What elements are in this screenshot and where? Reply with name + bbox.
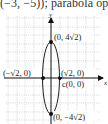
x-axis-label: x — [103, 79, 108, 87]
top-vertex-label: (0, 4√2) — [54, 32, 81, 42]
ellipse-graph: y x (0, 4√2) (−√2, 0) (√2, 0) c(0, 0) (0… — [0, 0, 108, 124]
center-label: c(0, 0) — [62, 79, 84, 89]
bottom-vertex-label: (0, −4√2) — [53, 112, 85, 122]
left-covertex-label: (−√2, 0) — [3, 68, 31, 78]
right-covertex-label: (√2, 0) — [61, 68, 84, 78]
top-vertex-point — [49, 40, 53, 44]
